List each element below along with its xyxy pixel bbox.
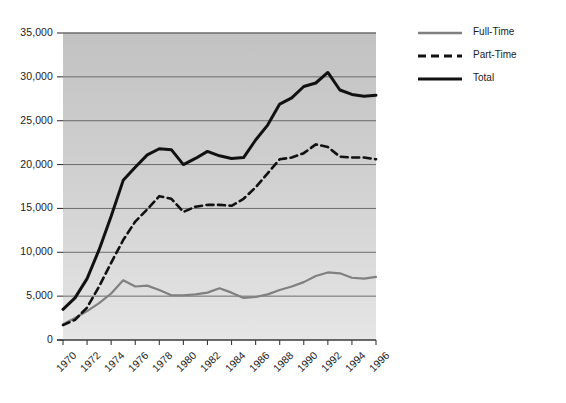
legend-label-full-time: Full-Time [473, 26, 514, 37]
y-tick-label: 30,000 [20, 70, 53, 82]
x-axis-ticks [63, 340, 376, 345]
y-tick-label: 5,000 [26, 289, 53, 301]
y-tick-label: 10,000 [20, 245, 53, 257]
y-tick-label: 35,000 [20, 26, 53, 38]
line-chart: 05,00010,00015,00020,00025,00030,00035,0… [0, 0, 566, 403]
chart-canvas [0, 0, 566, 403]
legend-label-total: Total [473, 72, 494, 83]
y-axis-ticks [57, 33, 63, 340]
y-tick-label: 0 [47, 333, 53, 345]
y-tick-label: 15,000 [20, 201, 53, 213]
legend-label-part-time: Part-Time [473, 49, 517, 60]
y-tick-label: 25,000 [20, 114, 53, 126]
y-tick-label: 20,000 [20, 158, 53, 170]
legend-swatches [418, 33, 462, 79]
